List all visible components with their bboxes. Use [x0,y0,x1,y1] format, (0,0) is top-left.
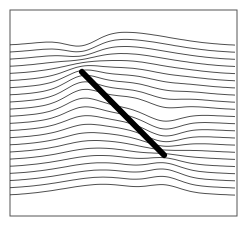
streamline [10,66,235,81]
streamline [10,39,235,52]
streamline [10,82,235,102]
streamline [10,70,235,88]
streamline [10,141,235,153]
streamline [10,61,235,74]
streamline [10,47,235,60]
streamline [10,54,235,67]
streamline [10,148,235,159]
streamline [10,116,235,136]
streamline [10,156,235,167]
streamline-diagram [0,0,252,227]
streamline [10,176,235,188]
streamline [10,169,235,181]
